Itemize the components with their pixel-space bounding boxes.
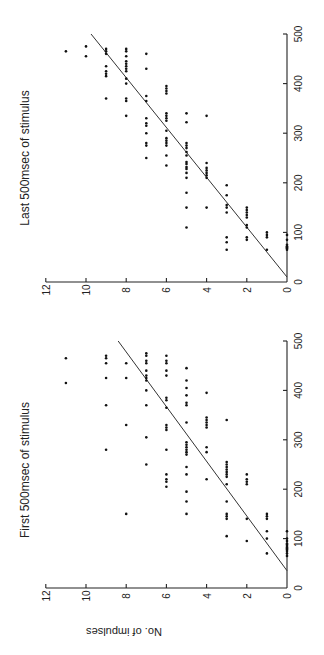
data-point bbox=[185, 490, 188, 493]
data-point bbox=[165, 154, 168, 157]
data-point bbox=[165, 92, 168, 95]
data-point bbox=[185, 147, 188, 150]
data-point bbox=[185, 151, 188, 154]
data-point bbox=[225, 184, 228, 187]
data-point bbox=[246, 216, 249, 219]
data-point bbox=[145, 377, 148, 380]
data-point bbox=[286, 244, 289, 247]
data-point bbox=[145, 122, 148, 125]
impulse-tick-label: 10 bbox=[81, 284, 92, 296]
data-point bbox=[225, 518, 228, 521]
data-point bbox=[165, 142, 168, 145]
data-point bbox=[286, 537, 289, 540]
data-point bbox=[185, 226, 188, 229]
data-point bbox=[165, 137, 168, 140]
data-point bbox=[125, 82, 128, 85]
data-point bbox=[125, 97, 128, 100]
data-point bbox=[145, 67, 148, 70]
data-point bbox=[185, 401, 188, 404]
data-point bbox=[266, 513, 269, 516]
data-point bbox=[165, 90, 168, 93]
data-point bbox=[286, 542, 289, 545]
data-point bbox=[105, 75, 108, 78]
data-point bbox=[185, 172, 188, 175]
data-point bbox=[165, 115, 168, 118]
impulse-tick-label: 12 bbox=[41, 284, 52, 296]
data-point bbox=[165, 369, 168, 372]
data-point bbox=[165, 448, 168, 451]
data-point bbox=[125, 67, 128, 70]
regression-line bbox=[118, 341, 287, 571]
data-point bbox=[165, 480, 168, 483]
data-point bbox=[145, 124, 148, 127]
data-point bbox=[185, 161, 188, 164]
data-point bbox=[266, 248, 269, 251]
data-point bbox=[246, 473, 249, 476]
data-point bbox=[185, 166, 188, 169]
time-tick-label: 400 bbox=[293, 382, 304, 399]
data-point bbox=[205, 162, 208, 165]
data-point bbox=[246, 211, 249, 214]
data-point bbox=[246, 239, 249, 242]
data-point bbox=[266, 515, 269, 518]
data-point bbox=[205, 424, 208, 427]
data-point bbox=[225, 535, 228, 538]
data-point bbox=[105, 377, 108, 380]
data-point bbox=[185, 466, 188, 469]
data-point bbox=[246, 214, 249, 217]
impulse-tick-label: 10 bbox=[81, 590, 92, 602]
data-point bbox=[165, 478, 168, 481]
data-point bbox=[65, 357, 68, 360]
data-point bbox=[145, 53, 148, 56]
data-point bbox=[286, 530, 289, 533]
data-point bbox=[205, 392, 208, 395]
time-tick-label: 300 bbox=[293, 431, 304, 448]
data-point bbox=[165, 399, 168, 402]
impulse-tick-label: 8 bbox=[121, 287, 132, 293]
data-point bbox=[125, 377, 128, 380]
data-point bbox=[145, 157, 148, 160]
data-point bbox=[225, 211, 228, 214]
data-point bbox=[105, 448, 108, 451]
data-point bbox=[185, 421, 188, 424]
data-point bbox=[185, 443, 188, 446]
data-point bbox=[105, 50, 108, 53]
figure-canvas: 0246810120100200300400500Last 500msec of… bbox=[0, 0, 324, 655]
data-point bbox=[225, 513, 228, 516]
data-point bbox=[145, 142, 148, 145]
time-tick-label: 400 bbox=[293, 75, 304, 92]
data-point bbox=[165, 117, 168, 120]
data-point bbox=[85, 55, 88, 58]
data-point bbox=[105, 70, 108, 73]
data-point bbox=[225, 194, 228, 197]
data-point bbox=[165, 374, 168, 377]
data-point bbox=[105, 53, 108, 56]
data-point bbox=[185, 404, 188, 407]
time-tick-label: 500 bbox=[293, 332, 304, 349]
data-point bbox=[145, 404, 148, 407]
data-point bbox=[125, 513, 128, 516]
data-point bbox=[125, 48, 128, 51]
data-point bbox=[266, 530, 269, 533]
impulse-tick-label: 0 bbox=[282, 593, 293, 599]
data-point bbox=[125, 115, 128, 118]
data-point bbox=[105, 48, 108, 51]
data-point bbox=[165, 406, 168, 409]
time-tick-label: 200 bbox=[293, 480, 304, 497]
data-point bbox=[145, 436, 148, 439]
data-point bbox=[165, 397, 168, 400]
data-point bbox=[205, 115, 208, 118]
data-point bbox=[225, 500, 228, 503]
data-point bbox=[165, 120, 168, 123]
data-point bbox=[266, 231, 269, 234]
data-point bbox=[225, 241, 228, 244]
data-point bbox=[225, 483, 228, 486]
data-point bbox=[165, 424, 168, 427]
data-point bbox=[246, 206, 249, 209]
data-point bbox=[145, 379, 148, 382]
data-point bbox=[205, 419, 208, 422]
data-point bbox=[246, 540, 249, 543]
data-point bbox=[225, 248, 228, 251]
data-point bbox=[165, 139, 168, 142]
data-point bbox=[125, 77, 128, 80]
